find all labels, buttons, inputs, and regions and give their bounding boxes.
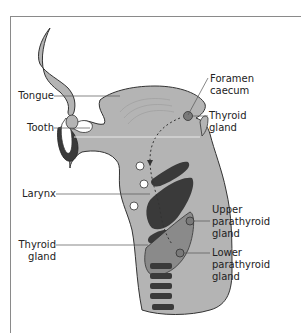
label-tongue: Tongue [12, 90, 54, 102]
lower-lip [66, 115, 78, 129]
label-lower-parathyroid-line2: parathyroid [212, 259, 270, 271]
label-tooth: Tooth [12, 122, 54, 134]
label-upper-parathyroid-line3: gland [212, 228, 270, 240]
label-thyroid-gland-left-line2: gland [12, 251, 56, 263]
label-thyroid-gland-left-line1: Thyroid [12, 239, 56, 251]
migration-marker [130, 202, 138, 210]
lower-parathyroid-dot [176, 249, 184, 257]
tracheal-ring [150, 283, 172, 289]
label-upper-parathyroid-line2: parathyroid [212, 216, 270, 228]
upper-parathyroid-dot [186, 217, 194, 225]
tracheal-ring [150, 263, 172, 269]
label-larynx: Larynx [12, 188, 56, 200]
label-thyroid-gland-right: Thyroid gland [209, 110, 247, 134]
label-foramen-caecum-line1: Foramen [210, 73, 254, 85]
upper-jaw-structure [38, 28, 74, 116]
label-upper-parathyroid-gland: Upper parathyroid gland [212, 204, 270, 240]
migration-marker [140, 180, 148, 188]
label-thyroid-gland-right-line1: Thyroid [209, 110, 247, 122]
label-lower-parathyroid-line1: Lower [212, 247, 270, 259]
migration-marker [136, 162, 144, 170]
tracheal-ring [150, 293, 172, 299]
tracheal-ring [152, 304, 174, 310]
label-thyroid-gland-right-line2: gland [209, 122, 247, 134]
label-thyroid-gland-left: Thyroid gland [12, 239, 56, 263]
anatomy-illustration [0, 0, 301, 333]
label-upper-parathyroid-line1: Upper [212, 204, 270, 216]
label-foramen-caecum-line2: caecum [210, 85, 254, 97]
label-foramen-caecum: Foramen caecum [210, 73, 254, 97]
tracheal-ring [150, 273, 172, 279]
diagram-canvas: Tongue Tooth Larynx Thyroid gland Forame… [0, 0, 301, 333]
label-lower-parathyroid-gland: Lower parathyroid gland [212, 247, 270, 283]
label-lower-parathyroid-line3: gland [212, 271, 270, 283]
foramen-caecum-dot [184, 112, 193, 121]
